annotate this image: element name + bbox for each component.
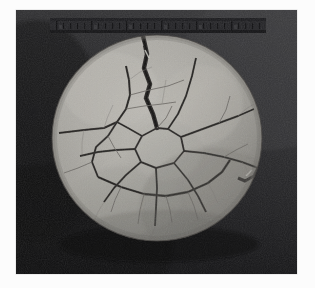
film-grain-overlay (16, 10, 297, 274)
figure-root: Grayscale photograph of a circular clay … (0, 0, 315, 288)
photo-canvas (16, 10, 297, 274)
specimen-photograph (16, 10, 297, 274)
